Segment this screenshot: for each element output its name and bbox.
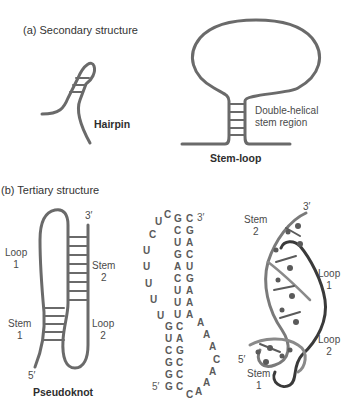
nt: C	[149, 230, 156, 240]
loop1-word: Loop	[5, 247, 27, 259]
stem2-word: Stem	[92, 260, 115, 272]
nt: A	[186, 238, 193, 248]
loop2-number: 2	[318, 346, 340, 358]
structure3d-5prime: 5′	[238, 354, 245, 366]
nt: U	[145, 279, 152, 289]
nt: A	[203, 330, 210, 340]
stem1-number: 1	[247, 380, 270, 392]
pseudoknot-5prime: 5′	[28, 370, 35, 382]
pseudoknot-loop1-label: Loop 1	[5, 247, 27, 271]
nt: G	[176, 346, 184, 356]
stem2-number: 2	[244, 226, 267, 238]
nt: U	[157, 311, 164, 321]
loop1-word: Loop	[318, 268, 340, 280]
nt: A	[195, 387, 202, 397]
nt: C	[176, 370, 183, 380]
nt: C	[164, 210, 171, 220]
stem1-word: Stem	[247, 368, 270, 380]
nt: G	[165, 370, 173, 380]
panel-b-heading: (b) Tertiary structure	[1, 184, 99, 196]
nt: U	[150, 295, 157, 305]
structure3d-loop2-label: Loop 2	[318, 334, 340, 358]
nt: A	[209, 367, 216, 377]
nt: G	[174, 250, 182, 260]
stem-loop-label: Stem-loop	[210, 152, 261, 164]
nt: C	[174, 226, 181, 236]
nt: A	[186, 310, 193, 320]
loop2-word: Loop	[92, 318, 114, 330]
pseudoknot-stem2-label: Stem 2	[92, 260, 115, 284]
stem-region-annotation: Double-helical stem region	[255, 105, 318, 129]
nt: A	[186, 286, 193, 296]
nt: C	[186, 250, 193, 260]
nt: U	[174, 238, 181, 248]
nt: U	[165, 334, 172, 344]
tertiary-3d-diagram	[250, 213, 326, 387]
nt: G	[186, 226, 194, 236]
loop2-number: 2	[92, 330, 114, 342]
nt: G	[165, 322, 173, 332]
nt: U	[155, 217, 162, 227]
sequence-5prime: 5′	[152, 382, 159, 392]
pseudoknot-loop2-label: Loop 2	[92, 318, 114, 342]
structure3d-loop1-label: Loop 1	[318, 268, 340, 292]
stem2-number: 2	[92, 272, 115, 284]
loop1-number: 1	[5, 259, 27, 271]
nt: C	[213, 355, 220, 365]
sequence-3prime: 3′	[197, 213, 204, 223]
pseudoknot-3prime: 3′	[85, 210, 92, 222]
nt: G	[186, 274, 194, 284]
annotation-line-2: stem region	[255, 117, 318, 129]
nt: A	[203, 378, 210, 388]
nt: A	[174, 262, 181, 272]
nt: U	[143, 262, 150, 272]
pseudoknot-label: Pseudoknot	[33, 386, 93, 398]
nt: C	[186, 214, 193, 224]
nt: A	[186, 298, 193, 308]
hairpin-diagram	[42, 63, 95, 143]
loop2-word: Loop	[318, 334, 340, 346]
annotation-line-1: Double-helical	[255, 105, 318, 117]
nt: C	[186, 390, 193, 399]
pseudoknot-stem1-label: Stem 1	[8, 318, 31, 342]
stem1-number: 1	[8, 330, 31, 342]
nt: U	[186, 262, 193, 272]
nt: G	[174, 214, 182, 224]
nt: U	[174, 298, 181, 308]
structure3d-stem2-label: Stem 2	[244, 214, 267, 238]
structure3d-stem1-label: Stem 1	[247, 368, 270, 392]
nt: G	[165, 358, 173, 368]
nt: C	[174, 274, 181, 284]
nt: U	[143, 246, 150, 256]
nt: C	[165, 346, 172, 356]
stem1-word: Stem	[8, 318, 31, 330]
hairpin-label: Hairpin	[94, 118, 130, 130]
nt: U	[174, 310, 181, 320]
nt: G	[165, 382, 173, 392]
loop1-number: 1	[318, 280, 340, 292]
nt: A	[209, 342, 216, 352]
nt: C	[176, 382, 183, 392]
pseudoknot-diagram	[35, 210, 88, 368]
stem2-word: Stem	[244, 214, 267, 226]
nt: A	[176, 334, 183, 344]
nt: A	[197, 318, 204, 328]
nt: C	[176, 358, 183, 368]
nt: U	[174, 286, 181, 296]
structure3d-3prime: 3′	[303, 201, 310, 213]
nt: C	[176, 322, 183, 332]
